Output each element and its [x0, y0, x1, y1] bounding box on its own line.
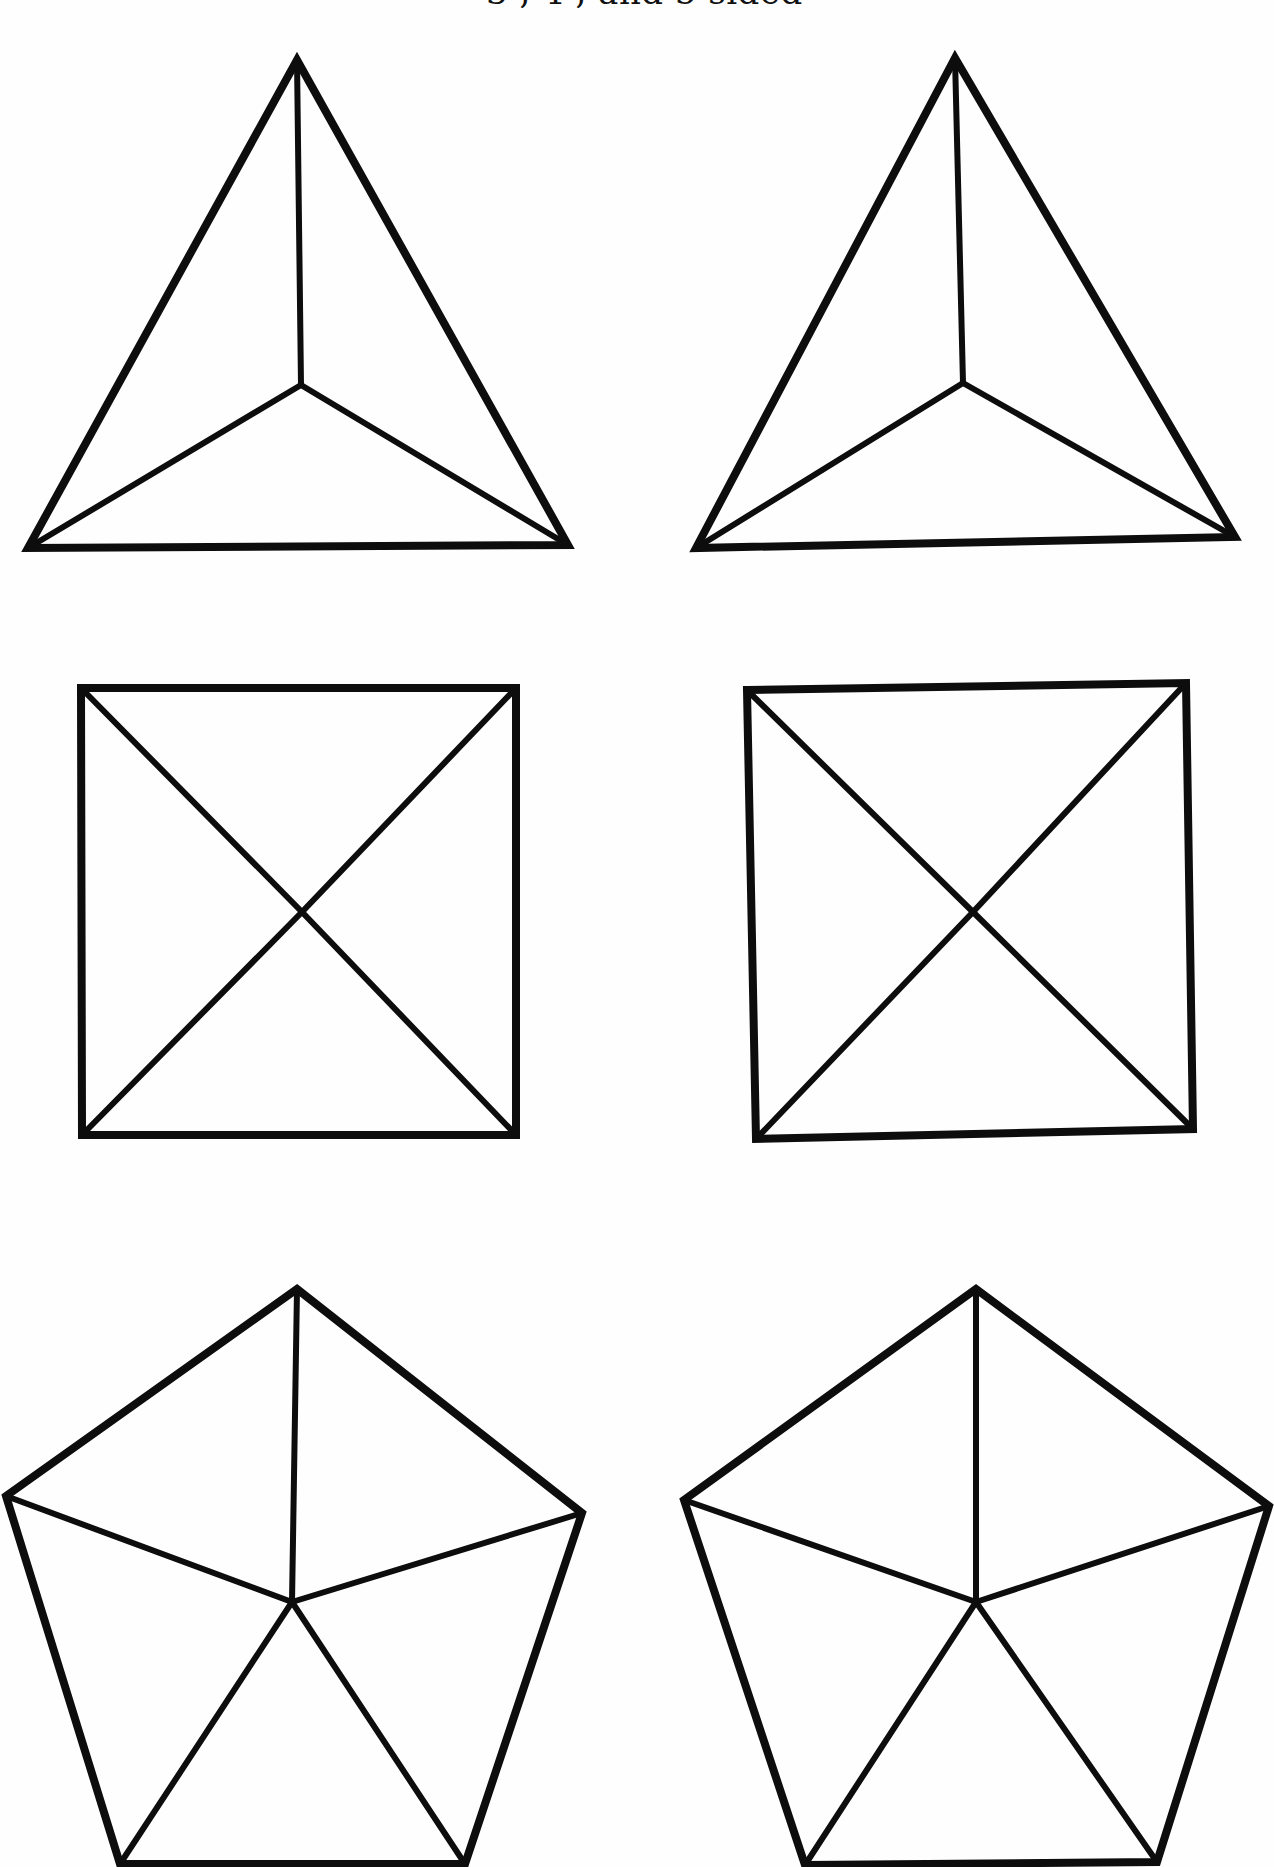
pentagon-right-spoke-2	[976, 1506, 1269, 1602]
pentagon-right-spoke-4	[805, 1602, 976, 1865]
triangle-left-spoke-1	[297, 60, 301, 385]
square-right-spoke-4	[756, 912, 973, 1139]
pentagon-right-spoke-3	[976, 1602, 1157, 1862]
triangle-right-spoke-1	[955, 58, 963, 383]
pentagon-left-spoke-1	[292, 1289, 297, 1602]
square-right-spoke-1	[747, 690, 973, 912]
worksheet-page: 3 , 4 , and 5 sided	[0, 0, 1274, 1867]
triangle-left	[28, 60, 568, 548]
triangle-left-spoke-2	[301, 385, 568, 545]
square-left-spoke-3	[302, 912, 516, 1135]
square-left-spoke-1	[81, 688, 302, 912]
square-left	[81, 688, 516, 1135]
triangle-right-outline	[696, 58, 1235, 548]
figures-canvas	[0, 0, 1274, 1867]
pentagon-left-spoke-5	[6, 1496, 292, 1602]
square-left-spoke-2	[302, 688, 516, 912]
square-right-spoke-3	[973, 912, 1193, 1129]
square-right	[747, 683, 1193, 1139]
pentagon-left-spoke-3	[292, 1602, 465, 1864]
pentagon-left-spoke-4	[120, 1602, 292, 1864]
triangle-right	[696, 58, 1235, 548]
square-left-spoke-4	[82, 912, 302, 1135]
square-right-spoke-2	[973, 683, 1186, 912]
pentagon-right-spoke-5	[684, 1500, 976, 1602]
pentagon-left	[6, 1289, 582, 1864]
pentagon-right	[684, 1289, 1269, 1865]
pentagon-left-spoke-2	[292, 1513, 582, 1602]
